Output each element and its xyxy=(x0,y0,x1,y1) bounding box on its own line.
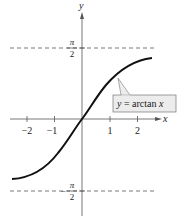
lower-minus: − xyxy=(60,186,65,196)
tick-label-neg2: −2 xyxy=(22,125,33,136)
tick-label-2: 2 xyxy=(135,125,140,136)
curve-label: y = arctan x xyxy=(116,98,164,109)
y-axis-arrow-icon xyxy=(80,12,84,19)
x-axis-label: x xyxy=(162,113,168,124)
lower-pi-num: π xyxy=(70,180,75,190)
x-axis-arrow-icon xyxy=(155,117,162,121)
upper-pi-den: 2 xyxy=(70,49,75,59)
tick-label-neg1: −1 xyxy=(47,125,58,136)
tick-label-1: 1 xyxy=(108,125,113,136)
upper-pi-num: π xyxy=(70,37,75,47)
lower-pi-den: 2 xyxy=(70,192,75,202)
y-axis-label: y xyxy=(78,0,84,11)
arctan-chart: −2 −1 1 2 x y π 2 − π 2 y = arctan x xyxy=(0,0,184,218)
callout-pointer xyxy=(118,78,130,95)
